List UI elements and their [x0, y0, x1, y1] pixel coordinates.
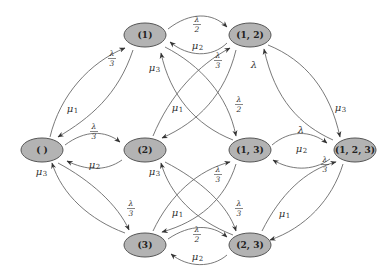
markov-state-diagram: λ 3 μ 1 λ 3 μ 2 μ 3 λ 3 λ 2 μ 2 μ 3: [0, 0, 391, 275]
label-mu-3: μ 3: [36, 166, 47, 179]
label-mu-1: μ 1: [172, 102, 183, 115]
label-mu-3: μ 3: [149, 62, 160, 75]
svg-text:(2): (2): [138, 145, 153, 155]
svg-text:(1): (1): [138, 30, 153, 40]
svg-text:λ: λ: [91, 122, 97, 131]
svg-text:2: 2: [194, 235, 200, 244]
node-1: (1): [124, 23, 166, 47]
label-lambda-over-2: λ 2: [193, 15, 201, 34]
svg-text:3: 3: [323, 165, 328, 174]
svg-text:λ: λ: [322, 155, 328, 164]
label-mu-1: μ 1: [67, 103, 78, 116]
svg-text:λ: λ: [297, 124, 304, 135]
svg-text:μ: μ: [89, 159, 96, 170]
svg-text:λ: λ: [194, 225, 200, 234]
svg-text:3: 3: [156, 170, 160, 178]
svg-text:3: 3: [237, 209, 242, 218]
node-1-2: (1, 2): [229, 23, 271, 47]
svg-text:2: 2: [236, 105, 242, 114]
svg-text:2: 2: [303, 147, 307, 155]
label-mu-2: μ 2: [89, 159, 100, 172]
svg-text:1: 1: [179, 211, 183, 219]
svg-text:λ: λ: [194, 15, 200, 24]
svg-text:3: 3: [110, 59, 115, 68]
svg-text:(1, 2, 3): (1, 2, 3): [335, 145, 375, 156]
svg-text:1: 1: [286, 212, 290, 220]
edge-empty-to-3: [58, 163, 129, 230]
svg-text:(2, 3): (2, 3): [236, 240, 263, 251]
svg-text:3: 3: [216, 175, 221, 184]
svg-text:(1, 3): (1, 3): [236, 145, 263, 156]
edge-13-to-1: [161, 53, 233, 140]
svg-text:( ): ( ): [36, 145, 48, 155]
svg-text:2: 2: [199, 44, 203, 52]
edge-13-to-3: [162, 164, 236, 232]
label-mu-3: μ 3: [149, 166, 160, 179]
svg-text:λ: λ: [109, 49, 115, 58]
svg-text:1: 1: [179, 106, 183, 114]
label-mu-2: μ 2: [192, 251, 203, 264]
svg-text:λ: λ: [215, 51, 221, 60]
svg-text:μ: μ: [36, 166, 43, 177]
svg-text:3: 3: [342, 106, 346, 114]
svg-text:3: 3: [43, 170, 47, 178]
label-lambda-over-3: λ 3: [127, 199, 135, 218]
svg-text:μ: μ: [149, 166, 156, 177]
diagram-canvas: λ 3 μ 1 λ 3 μ 2 μ 3 λ 3 λ 2 μ 2 μ 3: [0, 0, 391, 275]
svg-text:μ: μ: [279, 208, 286, 219]
svg-text:3: 3: [216, 61, 221, 70]
node-1-3: (1, 3): [229, 138, 271, 162]
svg-text:μ: μ: [192, 40, 199, 51]
label-mu-3: μ 3: [335, 102, 346, 115]
label-mu-1: μ 1: [172, 207, 183, 220]
svg-text:μ: μ: [335, 102, 342, 113]
edge-3-to-empty: [52, 163, 125, 233]
svg-text:1: 1: [74, 107, 78, 115]
svg-text:λ: λ: [236, 95, 242, 104]
svg-text:μ: μ: [149, 62, 156, 73]
svg-text:3: 3: [129, 209, 134, 218]
svg-text:μ: μ: [172, 207, 179, 218]
label-mu-1: μ 1: [279, 208, 290, 221]
svg-text:λ: λ: [236, 199, 242, 208]
svg-text:(3): (3): [138, 240, 153, 250]
svg-text:λ: λ: [128, 199, 134, 208]
label-lambda-over-3: λ 3: [108, 49, 116, 68]
svg-text:2: 2: [199, 255, 203, 263]
node-empty: ( ): [21, 138, 63, 162]
svg-text:2: 2: [96, 163, 100, 171]
label-lambda-over-3: λ 3: [214, 165, 222, 184]
svg-text:μ: μ: [172, 102, 179, 113]
label-lambda-over-3: λ 3: [321, 155, 329, 174]
svg-text:(1, 2): (1, 2): [236, 30, 263, 41]
svg-text:μ: μ: [192, 251, 199, 262]
svg-text:3: 3: [156, 66, 160, 74]
node-3: (3): [124, 233, 166, 257]
svg-text:2: 2: [194, 25, 200, 34]
node-2-3: (2, 3): [229, 233, 271, 257]
label-lambda-over-3: λ 3: [235, 199, 243, 218]
label-mu-2: μ 2: [296, 143, 307, 156]
svg-text:λ: λ: [250, 59, 257, 70]
label-lambda-over-3: λ 3: [214, 51, 222, 70]
svg-text:λ: λ: [215, 165, 221, 174]
label-lambda-over-2: λ 2: [235, 95, 243, 114]
svg-text:μ: μ: [67, 103, 74, 114]
svg-text:μ: μ: [296, 143, 303, 154]
label-mu-2: μ 2: [192, 40, 203, 53]
edge-12-to-2: [162, 50, 236, 138]
label-lambda: λ: [297, 124, 304, 135]
label-lambda-over-3: λ 3: [90, 122, 98, 141]
svg-text:3: 3: [92, 132, 97, 141]
label-lambda: λ: [250, 59, 257, 70]
node-1-2-3: (1, 2, 3): [334, 138, 376, 162]
node-2: (2): [124, 138, 166, 162]
